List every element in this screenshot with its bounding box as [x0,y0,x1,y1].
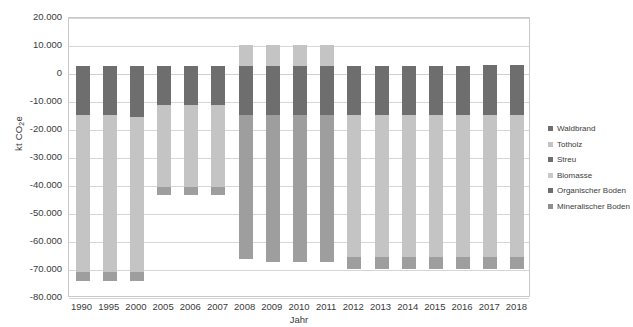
bar-segment[interactable] [293,45,307,65]
bar-segment[interactable] [103,66,117,116]
bar-segment[interactable] [347,257,361,268]
bar-segment[interactable] [320,45,334,65]
y-axis-tick-label: -60.000 [6,236,62,246]
bar-segment[interactable] [483,257,497,268]
y-axis-tick-label: 20.000 [6,12,62,22]
bar-segment[interactable] [130,66,144,117]
bar-column[interactable] [130,18,144,296]
legend-item[interactable]: Biomasse [548,168,633,184]
bar-segment[interactable] [293,66,307,116]
bars-layer [69,18,529,296]
bar-segment[interactable] [510,115,524,257]
bar-segment[interactable] [157,105,171,186]
bar-segment[interactable] [293,115,307,261]
bar-segment[interactable] [239,115,253,258]
legend-label: Mineralischer Boden [557,202,630,211]
bar-column[interactable] [375,18,389,296]
legend-label: Waldbrand [557,124,595,133]
bar-column[interactable] [239,18,253,296]
bar-segment[interactable] [375,115,389,257]
bar-column[interactable] [483,18,497,296]
bar-column[interactable] [510,18,524,296]
bar-column[interactable] [293,18,307,296]
bar-segment[interactable] [347,66,361,116]
bar-segment[interactable] [239,45,253,65]
bar-column[interactable] [76,18,90,296]
legend-label: Streu [557,155,576,164]
bar-segment[interactable] [456,66,470,116]
bar-segment[interactable] [456,257,470,268]
y-axis-tick-label: -50.000 [6,208,62,218]
bar-segment[interactable] [103,115,117,272]
bar-segment[interactable] [510,257,524,268]
chart-container: kt CO2e 20.00010.0000-10.000-20.000-30.0… [0,0,633,327]
legend-swatch-icon [548,204,553,209]
legend-label: Biomasse [557,171,592,180]
legend-item[interactable]: Organischer Boden [548,183,633,199]
bar-segment[interactable] [429,257,443,268]
bar-segment[interactable] [266,66,280,116]
bar-segment[interactable] [239,66,253,116]
bar-segment[interactable] [103,272,117,280]
bar-segment[interactable] [483,115,497,257]
bar-segment[interactable] [375,66,389,116]
legend-item[interactable]: Waldbrand [548,121,633,137]
legend-label: Totholz [557,140,582,149]
bar-segment[interactable] [402,257,416,268]
bar-column[interactable] [266,18,280,296]
legend-swatch-icon [548,157,553,162]
bar-segment[interactable] [483,65,497,116]
bar-segment[interactable] [211,187,225,195]
bar-column[interactable] [402,18,416,296]
bar-segment[interactable] [456,115,470,257]
bar-segment[interactable] [184,66,198,105]
bar-segment[interactable] [320,66,334,116]
legend-item[interactable]: Streu [548,152,633,168]
x-axis-tick-label: 2018 [500,301,532,312]
bar-segment[interactable] [429,66,443,116]
bar-segment[interactable] [157,187,171,195]
bar-column[interactable] [347,18,361,296]
bar-column[interactable] [429,18,443,296]
bar-segment[interactable] [157,66,171,105]
bar-column[interactable] [157,18,171,296]
bar-column[interactable] [184,18,198,296]
bar-segment[interactable] [184,105,198,186]
bar-segment[interactable] [130,272,144,280]
bar-segment[interactable] [510,65,524,116]
y-axis-tick-label: -30.000 [6,152,62,162]
bar-column[interactable] [103,18,117,296]
bar-segment[interactable] [76,272,90,280]
y-axis-tick-label: 10.000 [6,40,62,50]
chart-legend: WaldbrandTotholzStreuBiomasseOrganischer… [548,121,633,214]
bar-segment[interactable] [211,105,225,186]
bar-segment[interactable] [130,117,144,273]
legend-item[interactable]: Totholz [548,137,633,153]
bar-segment[interactable] [429,115,443,257]
y-axis-tick-label: -10.000 [6,96,62,106]
legend-item[interactable]: Mineralischer Boden [548,199,633,215]
legend-label: Organischer Boden [557,186,626,195]
y-axis-tick-label: -40.000 [6,180,62,190]
y-axis-tick-label: -20.000 [6,124,62,134]
bar-segment[interactable] [320,115,334,261]
y-axis-tick-label: 0 [6,68,62,78]
bar-column[interactable] [456,18,470,296]
y-axis-tick-label: -80.000 [6,292,62,302]
legend-swatch-icon [548,188,553,193]
plot-area [68,17,530,297]
bar-segment[interactable] [76,115,90,272]
bar-segment[interactable] [266,45,280,65]
bar-segment[interactable] [402,66,416,116]
bar-column[interactable] [211,18,225,296]
bar-segment[interactable] [347,115,361,257]
bar-segment[interactable] [402,115,416,257]
bar-segment[interactable] [266,115,280,261]
bar-segment[interactable] [76,66,90,116]
bar-segment[interactable] [375,257,389,268]
bar-column[interactable] [320,18,334,296]
bar-segment[interactable] [211,66,225,105]
x-axis-title: Jahr [68,314,530,325]
bar-segment[interactable] [184,187,198,195]
legend-swatch-icon [548,126,553,131]
